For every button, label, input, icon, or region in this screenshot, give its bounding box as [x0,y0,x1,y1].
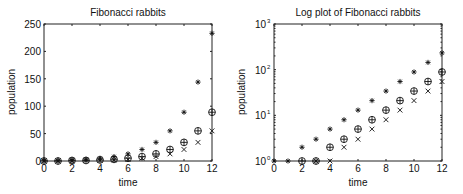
data-point-circle-plus [397,97,404,104]
data-point-circle-plus [299,158,306,165]
x-axis-label: time [119,177,138,188]
data-point-asterisk [285,158,290,163]
y-tick-label: 10 [255,65,267,76]
y-axis-label: population [236,69,247,115]
data-point-circle-plus [369,116,376,123]
data-point-asterisk [341,117,346,122]
y-tick-exponent: 2 [267,64,271,70]
y-tick-exponent: 0 [267,155,271,161]
data-point-x [196,140,201,145]
data-point-circle-plus [125,155,132,162]
y-tick-label: 100 [24,101,41,112]
data-point-circle-plus [327,144,334,151]
data-point-asterisk [383,88,388,93]
x-tick-label: 6 [355,163,361,174]
data-point-asterisk [355,108,360,113]
y-tick-label: 50 [30,129,42,140]
data-point-circle-plus [383,107,390,114]
data-point-x [370,127,375,132]
x-axis-label: time [349,177,368,188]
x-tick-label: 8 [383,163,389,174]
data-point-circle-plus [139,153,146,160]
x-tick-label: 12 [206,163,218,174]
chart-title: Log plot of Fibonacci rabbits [295,7,420,18]
data-point-circle-plus [209,109,216,116]
y-tick-label: 250 [24,19,41,30]
data-point-x [398,108,403,113]
y-tick-label: 200 [24,46,41,57]
data-point-asterisk [209,31,214,36]
y-axis-label: population [6,69,17,115]
data-marks [41,31,216,165]
x-tick-label: 4 [327,163,333,174]
data-point-asterisk [313,137,318,142]
data-point-asterisk [299,145,304,150]
y-tick-exponent: 3 [267,18,271,24]
x-tick-label: 4 [97,163,103,174]
y-tick-label: 10 [255,110,267,121]
data-point-asterisk [139,147,144,152]
y-tick-label: 10 [255,19,267,30]
data-point-circle-plus [181,139,188,146]
data-point-asterisk [397,79,402,84]
data-point-circle-plus [439,69,446,76]
data-point-circle-plus [341,136,348,143]
linear-chart: Fibonacci rabbits time population 024681… [6,7,218,188]
data-point-asterisk [439,50,444,55]
data-point-x [384,117,389,122]
data-point-circle-plus [355,126,362,133]
y-tick-label: 150 [24,74,41,85]
data-point-asterisk [411,69,416,74]
data-marks [271,50,445,164]
data-point-asterisk [195,79,200,84]
data-point-asterisk [153,140,158,145]
x-tick-label: 8 [153,163,159,174]
x-tick-label: 12 [436,163,448,174]
x-tick-label: 2 [69,163,75,174]
x-tick-label: 10 [408,163,420,174]
figure: Fibonacci rabbits time population 024681… [0,0,463,194]
data-point-x [342,145,347,150]
y-tick-label: 10 [255,156,267,167]
y-tick-exponent: 1 [267,109,271,115]
log-chart: Log plot of Fibonacci rabbits time popul… [236,7,448,188]
x-tick-label: 6 [125,163,131,174]
chart-title: Fibonacci rabbits [90,7,166,18]
data-point-x [412,98,417,103]
data-point-asterisk [271,158,276,163]
x-ticks: 024681012 [41,24,218,174]
data-point-asterisk [327,126,332,131]
data-point-circle-plus [411,88,418,95]
data-point-x [182,147,187,152]
data-point-circle-plus [425,78,432,85]
x-tick-label: 10 [178,163,190,174]
data-point-asterisk [167,128,172,133]
data-point-x [356,137,361,142]
x-ticks: 024681012 [271,24,448,174]
x-tick-label: 0 [271,163,277,174]
data-point-asterisk [369,98,374,103]
data-point-asterisk [181,110,186,115]
data-point-x [426,89,431,94]
data-point-circle-plus [195,127,202,134]
data-point-asterisk [425,60,430,65]
